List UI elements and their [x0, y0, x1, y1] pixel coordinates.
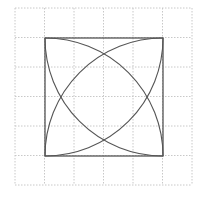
dotted-grid: [15, 8, 192, 185]
square-arcs-diagram: [0, 0, 202, 203]
diagram-canvas: [0, 0, 202, 203]
